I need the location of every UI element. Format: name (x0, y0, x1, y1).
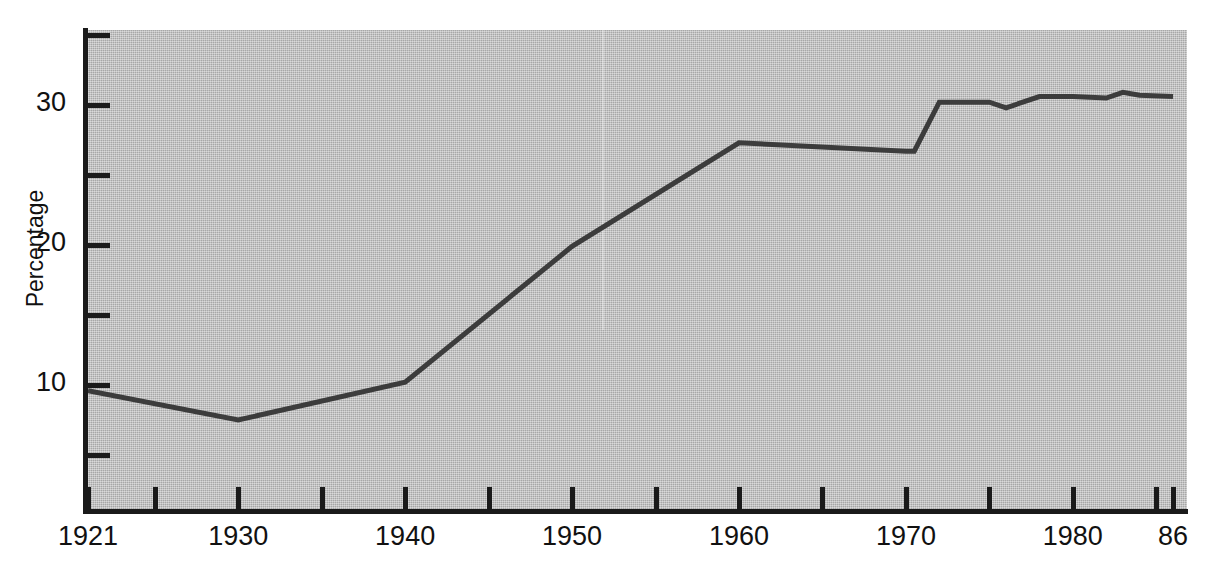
x-axis-tick (86, 487, 91, 509)
x-axis-tick (153, 487, 158, 509)
plot-area (88, 30, 1187, 512)
x-axis-tick-label: 1950 (542, 521, 602, 552)
x-axis-tick (1071, 487, 1076, 509)
x-axis-tick-label: 1930 (208, 521, 268, 552)
x-axis-tick (487, 487, 492, 509)
x-axis-tick (987, 487, 992, 509)
x-axis-tick-label: 1940 (375, 521, 435, 552)
line-chart-figure: Percentage 302010 1921193019401950196019… (0, 0, 1212, 581)
y-axis-tick (88, 103, 110, 108)
y-axis-tick (88, 173, 110, 178)
x-axis-tick (236, 487, 241, 509)
x-axis-tick (820, 487, 825, 509)
x-axis-line (83, 509, 1188, 514)
y-axis-tick (88, 313, 110, 318)
y-axis-tick (88, 33, 110, 38)
y-axis-tick-label: 30 (36, 87, 66, 118)
y-axis-tick (88, 243, 110, 248)
x-axis-tick-label: 86 (1158, 521, 1188, 552)
x-axis-tick (1171, 487, 1176, 509)
x-axis-tick-label: 1970 (876, 521, 936, 552)
x-axis-tick (737, 487, 742, 509)
x-axis-tick (320, 487, 325, 509)
y-axis-tick-label: 20 (36, 227, 66, 258)
x-axis-tick-label: 1960 (709, 521, 769, 552)
x-axis-tick (403, 487, 408, 509)
x-axis-tick (570, 487, 575, 509)
x-axis-tick (1154, 487, 1159, 509)
y-axis-tick (88, 383, 110, 388)
y-axis-tick (88, 453, 110, 458)
x-axis-tick (654, 487, 659, 509)
y-axis-line (83, 28, 88, 514)
data-series-line (88, 30, 1187, 512)
x-axis-tick (904, 487, 909, 509)
x-axis-tick-label: 1980 (1043, 521, 1103, 552)
x-axis-tick-label: 1921 (58, 521, 118, 552)
y-axis-tick-label: 10 (36, 367, 66, 398)
